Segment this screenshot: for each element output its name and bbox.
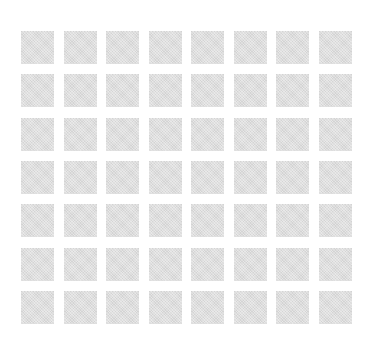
grid-cell (21, 31, 54, 64)
grid-cell (191, 161, 224, 194)
grid-cell (149, 248, 182, 281)
grid-cell (149, 74, 182, 107)
grid-cell (319, 118, 352, 151)
grid-cell (276, 291, 309, 324)
grid-canvas (0, 0, 378, 350)
grid-cell (64, 31, 97, 64)
grid-cell (64, 204, 97, 237)
grid-cell (21, 118, 54, 151)
grid-cell (234, 31, 267, 64)
grid-cell (149, 31, 182, 64)
grid-cell (149, 291, 182, 324)
grid-cell (21, 291, 54, 324)
grid-cell (276, 31, 309, 64)
grid-cell (276, 161, 309, 194)
grid-cell (64, 161, 97, 194)
grid-cell (21, 74, 54, 107)
grid-cell (319, 291, 352, 324)
grid-cell (21, 161, 54, 194)
grid-cell (64, 291, 97, 324)
grid-cell (149, 161, 182, 194)
grid-cell (191, 118, 224, 151)
grid-cell (64, 118, 97, 151)
grid-cell (319, 31, 352, 64)
placeholder-grid (21, 31, 355, 326)
grid-cell (191, 74, 224, 107)
grid-cell (21, 204, 54, 237)
grid-cell (234, 248, 267, 281)
grid-cell (191, 204, 224, 237)
grid-cell (234, 161, 267, 194)
grid-cell (106, 248, 139, 281)
grid-cell (21, 248, 54, 281)
grid-cell (234, 74, 267, 107)
grid-cell (191, 291, 224, 324)
grid-cell (106, 74, 139, 107)
grid-cell (106, 291, 139, 324)
grid-cell (276, 74, 309, 107)
grid-cell (319, 248, 352, 281)
grid-cell (319, 74, 352, 107)
grid-cell (106, 161, 139, 194)
grid-cell (319, 204, 352, 237)
grid-cell (191, 248, 224, 281)
grid-cell (64, 248, 97, 281)
grid-cell (149, 118, 182, 151)
grid-cell (234, 291, 267, 324)
grid-cell (276, 248, 309, 281)
grid-cell (149, 204, 182, 237)
grid-cell (64, 74, 97, 107)
grid-cell (106, 204, 139, 237)
grid-cell (234, 118, 267, 151)
grid-cell (319, 161, 352, 194)
grid-cell (106, 31, 139, 64)
grid-cell (106, 118, 139, 151)
grid-cell (191, 31, 224, 64)
grid-cell (234, 204, 267, 237)
grid-cell (276, 204, 309, 237)
grid-cell (276, 118, 309, 151)
